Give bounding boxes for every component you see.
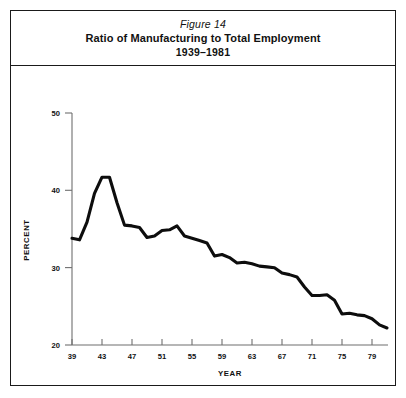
y-tick-label: 30 <box>52 264 60 273</box>
y-tick-marks <box>65 113 72 345</box>
x-tick-label: 75 <box>338 352 347 361</box>
x-tick-label: 39 <box>68 352 76 361</box>
x-tick-label: 79 <box>368 352 376 361</box>
x-tick-marks <box>72 339 372 345</box>
y-tick-labels: 50 40 30 20 <box>52 109 60 350</box>
x-tick-label: 71 <box>308 352 317 361</box>
x-tick-label: 47 <box>128 352 136 361</box>
y-tick-label: 40 <box>52 186 60 195</box>
x-tick-label: 55 <box>188 352 197 361</box>
x-tick-label: 51 <box>158 352 167 361</box>
y-axis-title: PERCENT <box>22 219 31 260</box>
x-tick-labels: 39 43 47 51 55 59 63 67 71 75 79 <box>68 352 376 361</box>
x-tick-label: 67 <box>278 352 286 361</box>
x-tick-label: 59 <box>218 352 226 361</box>
plot-area: 50 40 30 20 39 43 <box>0 0 406 398</box>
x-tick-label: 43 <box>98 352 106 361</box>
x-axis-title: YEAR <box>218 369 242 378</box>
data-series-line <box>72 177 387 328</box>
figure-container: Figure 14 Ratio of Manufacturing to Tota… <box>0 0 406 398</box>
x-tick-label: 63 <box>248 352 256 361</box>
y-tick-label: 50 <box>52 109 60 118</box>
chart-svg: 50 40 30 20 39 43 <box>0 0 406 398</box>
y-tick-label: 20 <box>52 341 60 350</box>
